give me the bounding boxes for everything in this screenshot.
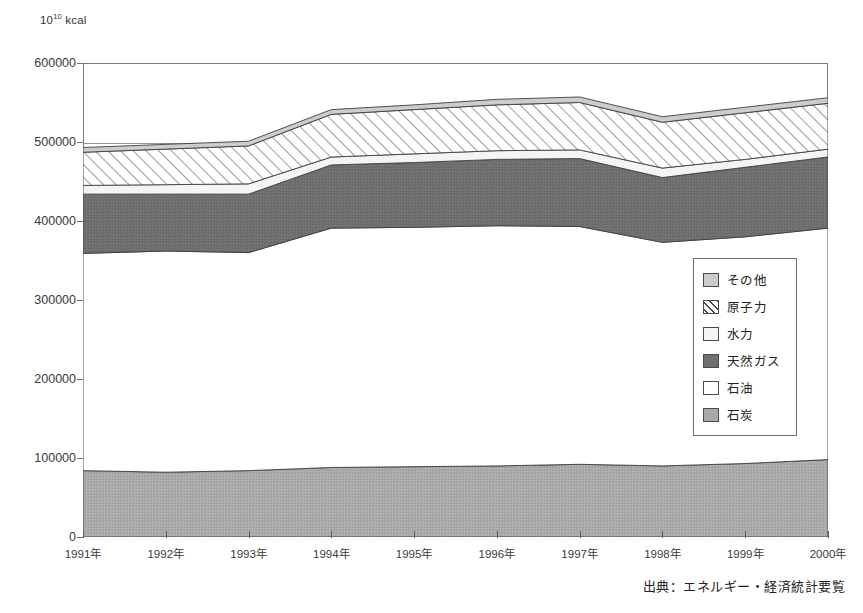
y-axis-tick-label: 500000 [34, 135, 76, 149]
x-axis-tick-mark [166, 531, 167, 538]
x-axis-tick-mark [828, 531, 829, 538]
x-axis-tick-label: 2000年 [810, 545, 847, 561]
legend-swatch [703, 300, 719, 314]
legend-swatch [703, 408, 719, 422]
legend-label: 天然ガス [727, 351, 780, 370]
y-axis-tick-label: 400000 [34, 214, 76, 228]
x-axis-tick-mark [414, 531, 415, 538]
legend-label: 石炭 [727, 405, 754, 424]
legend-item: 原子力 [703, 293, 788, 320]
x-axis-tick-mark [249, 531, 250, 538]
legend-item: 石油 [703, 374, 788, 401]
x-axis-tick-label: 1996年 [479, 545, 516, 561]
y-axis-tick-label: 100000 [34, 451, 76, 465]
y-axis-tick-label: 0 [69, 530, 76, 544]
legend-item: その他 [703, 266, 788, 293]
x-axis-tick-label: 1995年 [396, 545, 433, 561]
x-axis-tick-label: 1991年 [65, 545, 102, 561]
y-axis: 6000005000004000003000002000001000000 [0, 0, 76, 613]
x-axis-tick-label: 1997年 [561, 545, 598, 561]
y-axis-tick-label: 200000 [34, 372, 76, 386]
legend-label: その他 [727, 270, 767, 289]
x-axis-tick-mark [580, 531, 581, 538]
legend-swatch [703, 273, 719, 287]
x-axis-tick-mark [83, 531, 84, 538]
chart-legend: その他原子力水力天然ガス石油石炭 [693, 258, 797, 436]
stacked-area-chart: 1010 kcal 600000500000400000300000200000… [0, 0, 863, 613]
x-axis-tick-mark [745, 531, 746, 538]
source-note: 出典：エネルギー・経済統計要覧 [643, 576, 846, 595]
legend-swatch [703, 354, 719, 368]
legend-item: 天然ガス [703, 347, 788, 374]
legend-label: 石油 [727, 378, 754, 397]
legend-swatch [703, 381, 719, 395]
y-axis-tick-label: 600000 [34, 56, 76, 70]
x-axis-tick-label: 1993年 [230, 545, 267, 561]
x-axis-tick-label: 1992年 [147, 545, 184, 561]
x-axis-tick-mark [331, 531, 332, 538]
legend-item: 水力 [703, 320, 788, 347]
legend-label: 原子力 [727, 297, 767, 316]
x-axis-tick-label: 1999年 [727, 545, 764, 561]
legend-label: 水力 [727, 324, 754, 343]
y-axis-tick-label: 300000 [34, 293, 76, 307]
x-axis-tick-mark [662, 531, 663, 538]
x-axis-tick-label: 1994年 [313, 545, 350, 561]
legend-item: 石炭 [703, 401, 788, 428]
legend-swatch [703, 327, 719, 341]
x-axis-tick-mark [497, 531, 498, 538]
x-axis-tick-label: 1998年 [644, 545, 681, 561]
